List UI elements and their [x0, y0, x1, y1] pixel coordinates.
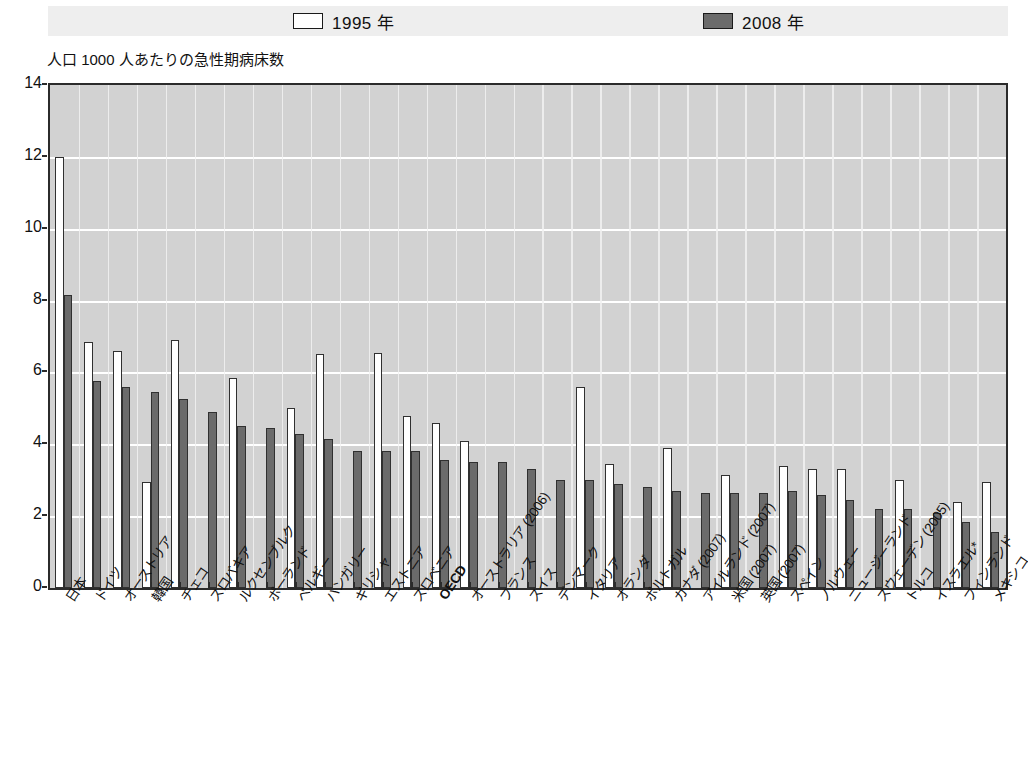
- y-axis-tick-mark: [42, 514, 47, 516]
- bar-group: [311, 85, 340, 588]
- bar-1995[interactable]: [55, 157, 64, 588]
- bar-group: [369, 85, 398, 588]
- y-axis-tick-label: 8: [6, 290, 42, 308]
- bar-1995[interactable]: [84, 342, 93, 588]
- bar-group: [629, 85, 658, 588]
- bar-group: [485, 85, 514, 588]
- y-axis-tick-label: 6: [6, 361, 42, 379]
- bar-group: [832, 85, 861, 588]
- bar-group: [224, 85, 253, 588]
- bar-group: [398, 85, 427, 588]
- legend-label-2008: 2008 年: [742, 9, 805, 34]
- y-axis-tick-mark: [42, 586, 47, 588]
- bar-2008[interactable]: [122, 387, 131, 588]
- bar-group: [687, 85, 716, 588]
- bar-2008[interactable]: [469, 462, 478, 588]
- y-axis: 02468101214: [0, 83, 42, 590]
- bar-2008[interactable]: [208, 412, 217, 588]
- bar-group: [340, 85, 369, 588]
- y-axis-tick-label: 2: [6, 505, 42, 523]
- y-axis-tick-mark: [42, 299, 47, 301]
- bar-group: [427, 85, 456, 588]
- bar-group: [253, 85, 282, 588]
- bar-group: [716, 85, 745, 588]
- y-axis-tick-mark: [42, 370, 47, 372]
- bar-group: [79, 85, 108, 588]
- y-axis-tick-mark: [42, 155, 47, 157]
- bar-group: [166, 85, 195, 588]
- bar-group: [658, 85, 687, 588]
- y-axis-tick-label: 12: [6, 146, 42, 164]
- bar-group: [195, 85, 224, 588]
- bar-1995[interactable]: [171, 340, 180, 588]
- y-axis-tick-mark: [42, 227, 47, 229]
- bar-group: [571, 85, 600, 588]
- bar-group: [861, 85, 890, 588]
- legend-label-1995: 1995 年: [332, 9, 395, 34]
- bar-2008[interactable]: [64, 295, 73, 588]
- bar-2008[interactable]: [179, 399, 188, 588]
- y-axis-tick-mark: [42, 442, 47, 444]
- bar-group: [977, 85, 1006, 588]
- legend-swatch-1995-icon: [293, 13, 323, 29]
- bar-group: [890, 85, 919, 588]
- bar-2008[interactable]: [93, 381, 102, 588]
- bar-1995[interactable]: [113, 351, 122, 588]
- y-axis-tick-label: 14: [6, 74, 42, 92]
- bar-group: [948, 85, 977, 588]
- bar-group: [456, 85, 485, 588]
- chart-legend: 1995 年 2008 年: [48, 6, 1008, 36]
- y-axis-tick-label: 4: [6, 433, 42, 451]
- bar-group: [50, 85, 79, 588]
- bar-group: [108, 85, 137, 588]
- y-axis-tick-mark: [42, 83, 47, 85]
- x-axis-labels: 日本ドイツオーストリア韓国チェコスロバキアルクセンブルクポーランドベルギーハンガ…: [0, 592, 1028, 766]
- chart-page: 1995 年 2008 年 人口 1000 人あたりの急性期病床数 024681…: [0, 0, 1028, 766]
- legend-item-2008: 2008 年: [703, 8, 805, 34]
- y-axis-title: 人口 1000 人あたりの急性期病床数: [47, 48, 284, 69]
- bar-group: [282, 85, 311, 588]
- bar-group: [600, 85, 629, 588]
- bar-group: [803, 85, 832, 588]
- bar-group: [542, 85, 571, 588]
- legend-swatch-2008-icon: [703, 13, 733, 29]
- legend-item-1995: 1995 年: [293, 8, 395, 34]
- y-axis-tick-label: 10: [6, 218, 42, 236]
- bar-group: [137, 85, 166, 588]
- bar-group: [774, 85, 803, 588]
